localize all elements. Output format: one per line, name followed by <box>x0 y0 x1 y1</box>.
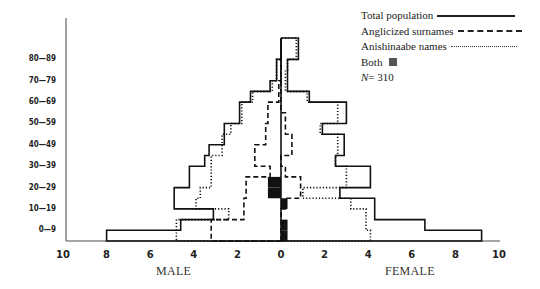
series-dashed-female <box>281 38 301 241</box>
both-bar <box>281 220 288 231</box>
x-tick-label: 2 <box>315 249 335 260</box>
female-label: FEMALE <box>385 264 435 279</box>
legend-anglicized-label: Anglicized surnames <box>361 24 454 40</box>
y-tick-label: 80—89 <box>8 53 56 63</box>
legend-n: N = 310 <box>361 70 522 86</box>
x-tick-label: 4 <box>184 249 204 260</box>
chart-legend: Total population Anglicized surnames Ani… <box>361 8 522 86</box>
series-dotted-female <box>281 38 370 241</box>
x-tick-label: 10 <box>489 249 509 260</box>
n-symbol: N <box>361 70 368 86</box>
n-value: = 310 <box>368 70 393 86</box>
x-tick-label: 6 <box>402 249 422 260</box>
dashed-line-icon <box>458 30 522 32</box>
legend-anishinaabe: Anishinaabe names <box>361 39 522 55</box>
x-tick-label: 6 <box>140 249 160 260</box>
y-tick-label: 10—19 <box>8 203 56 213</box>
x-tick-label: 8 <box>97 249 117 260</box>
filled-square-icon <box>389 58 397 66</box>
both-bar <box>268 188 281 199</box>
y-tick-label: 30—39 <box>8 160 56 170</box>
both-bar <box>268 177 281 188</box>
y-tick-label: 0—9 <box>8 224 56 234</box>
y-tick-label: 60—69 <box>8 96 56 106</box>
y-tick-label: 50—59 <box>8 117 56 127</box>
legend-both: Both <box>361 55 522 71</box>
y-tick-label: 70—79 <box>8 75 56 85</box>
legend-both-label: Both <box>361 55 382 71</box>
x-tick-label: 0 <box>271 249 291 260</box>
y-tick-label: 40—49 <box>8 139 56 149</box>
x-tick-label: 4 <box>358 249 378 260</box>
x-tick-label: 2 <box>227 249 247 260</box>
series-solid-male <box>107 38 281 241</box>
legend-total: Total population <box>361 8 522 24</box>
dotted-line-icon <box>451 46 517 47</box>
legend-anishinaabe-label: Anishinaabe names <box>361 39 447 55</box>
legend-anglicized: Anglicized surnames <box>361 24 522 40</box>
both-bar <box>281 198 288 209</box>
legend-total-label: Total population <box>361 8 433 24</box>
x-tick-label: 8 <box>445 249 465 260</box>
male-label: MALE <box>156 264 191 279</box>
both-bar <box>281 230 288 241</box>
solid-line-icon <box>437 15 515 17</box>
x-tick-label: 10 <box>53 249 73 260</box>
y-tick-label: 20—29 <box>8 182 56 192</box>
